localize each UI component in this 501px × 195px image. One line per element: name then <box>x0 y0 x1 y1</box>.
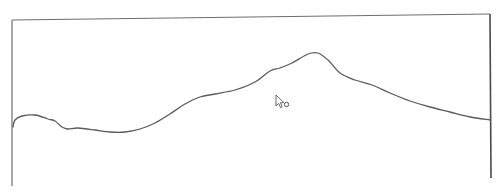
cursor-arrow-icon <box>276 95 284 108</box>
drawn-curve <box>13 52 490 132</box>
frame-top-edge <box>12 14 490 20</box>
mouse-cursor-icon <box>276 95 289 108</box>
drawing-surface[interactable] <box>0 0 501 195</box>
frame-right-edge <box>490 14 491 178</box>
drawing-canvas[interactable] <box>0 0 501 195</box>
cursor-busy-indicator-icon <box>284 102 288 106</box>
